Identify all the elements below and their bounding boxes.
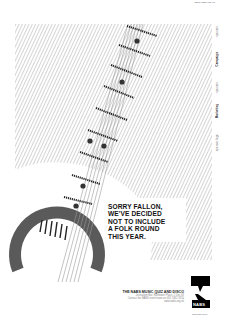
sponsor-logo: sponsor bbox=[215, 26, 219, 37]
headline-line: NOT TO INCLUDE bbox=[108, 218, 188, 225]
sponsor-logo: sponsor logo bbox=[215, 134, 219, 151]
guitar-illustration-icon bbox=[0, 0, 233, 325]
event-info: THE NABS MUSIC QUIZ AND DISCO Jerusalem … bbox=[89, 290, 184, 304]
headline: SORRY FALLON, WE'VE DECIDED NOT TO INCLU… bbox=[108, 203, 188, 240]
headline-line: THIS YEAR. bbox=[108, 233, 188, 240]
poster: www.nabs.org.uk bbox=[0, 0, 233, 325]
sponsor-logo: sponsor bbox=[215, 82, 219, 93]
headline-line: WE'VE DECIDED bbox=[108, 210, 188, 217]
sponsor-logo-marketing: Marketing bbox=[215, 104, 219, 118]
nabs-logo-text: NABS bbox=[193, 302, 205, 307]
headline-line: SORRY FALLON, bbox=[108, 203, 188, 210]
sponsor-logo-campaign: Campaign bbox=[215, 52, 219, 67]
event-url[interactable]: www.nabs.org.uk bbox=[89, 300, 184, 303]
nabs-url[interactable]: www.nabs.org.uk bbox=[192, 313, 207, 315]
sponsor-strip: sponsor Campaign sponsor Marketing spons… bbox=[213, 24, 223, 194]
headline-line: A FOLK ROUND bbox=[108, 225, 188, 232]
